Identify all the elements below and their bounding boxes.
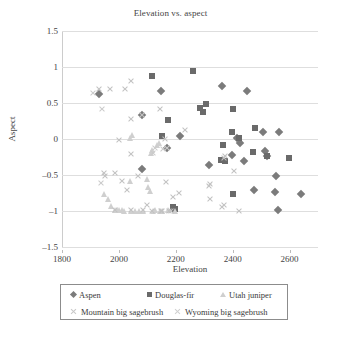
legend-row-top: AspenDouglas-firUtah juniper [61, 286, 287, 303]
data-point [229, 129, 235, 135]
legend-label: Mountain big sagebrush [81, 307, 163, 317]
data-point [128, 207, 135, 214]
data-point [218, 81, 226, 89]
data-point [207, 180, 214, 187]
data-point [135, 173, 142, 180]
data-point [128, 151, 135, 158]
plot-area [62, 31, 318, 247]
legend-label: Aspen [79, 290, 101, 300]
data-point [230, 168, 237, 175]
legend-marker-icon [173, 307, 182, 316]
data-point [129, 132, 135, 138]
data-point [271, 187, 279, 195]
data-point [127, 115, 134, 122]
x-tick-label: 2200 [153, 254, 199, 264]
data-point [95, 85, 102, 92]
x-tick-label: 2000 [96, 254, 142, 264]
data-point [147, 188, 153, 194]
data-point [243, 87, 251, 95]
chart-figure: Elevation vs. aspect Aspect 1.510.50–0.5… [0, 0, 341, 338]
legend-item[interactable]: Wyoming big sagebrush [173, 307, 268, 317]
data-point [152, 145, 159, 152]
y-tick-label: 0.5 [18, 98, 58, 108]
data-point [252, 125, 258, 131]
data-point [228, 151, 236, 159]
data-point [160, 146, 167, 153]
x-tick-label: 2600 [267, 254, 313, 264]
x-tick-label: 1800 [39, 254, 85, 264]
x-tick-mark [290, 250, 291, 253]
data-point [159, 208, 166, 215]
data-point [162, 179, 169, 186]
data-point [111, 207, 118, 214]
data-point [236, 208, 243, 215]
data-point [190, 68, 196, 74]
y-tick-label: –1.5 [18, 242, 58, 252]
data-point [200, 109, 206, 115]
data-point [205, 161, 213, 169]
data-point [236, 135, 242, 141]
legend-item[interactable]: Utah juniper [219, 290, 272, 300]
data-point [297, 189, 305, 197]
x-tick-mark [233, 250, 234, 253]
data-point [250, 149, 256, 155]
data-point [106, 85, 113, 92]
data-point [144, 176, 150, 182]
y-axis-tick-labels: 1.510.50–0.5–1–1.5 [16, 31, 58, 247]
legend-marker-icon [69, 307, 78, 316]
data-point [121, 85, 128, 92]
data-point [165, 117, 171, 123]
x-tick-mark [62, 250, 63, 253]
data-point [121, 208, 127, 214]
x-axis-tick-labels: 18002000220024002600 [62, 250, 318, 264]
data-point [250, 186, 258, 194]
data-point [98, 179, 105, 186]
y-tick-label: –1 [18, 206, 58, 216]
data-point [128, 77, 135, 84]
data-point [140, 207, 147, 214]
y-tick-label: 0 [18, 134, 58, 144]
data-point [89, 89, 96, 96]
legend-label: Douglas-fir [155, 290, 194, 300]
legend-label: Utah juniper [229, 290, 272, 300]
data-point [286, 155, 292, 161]
data-point [230, 106, 236, 112]
legend-item[interactable]: Mountain big sagebrush [69, 307, 163, 317]
data-point [119, 178, 126, 185]
data-point [149, 73, 155, 79]
data-point [203, 101, 209, 107]
data-point [157, 87, 165, 95]
data-point [272, 171, 280, 179]
chart-title: Elevation vs. aspect [0, 8, 341, 18]
x-tick-label: 2400 [210, 254, 256, 264]
data-point [181, 127, 188, 134]
data-point [206, 195, 213, 202]
legend-item[interactable]: Douglas-fir [145, 290, 194, 300]
legend-item[interactable]: Aspen [69, 290, 101, 300]
legend-marker-icon [70, 291, 77, 298]
data-point [221, 201, 228, 208]
data-point [123, 187, 130, 194]
data-point [101, 172, 108, 179]
y-tick-label: –0.5 [18, 170, 58, 180]
data-point [221, 153, 228, 160]
gridline [62, 247, 318, 248]
chart-legend: AspenDouglas-firUtah juniper Mountain bi… [60, 284, 288, 320]
data-point [240, 156, 248, 164]
legend-marker-icon [147, 292, 152, 297]
legend-row-bottom: Mountain big sagebrushWyoming big sagebr… [61, 303, 287, 320]
data-point [161, 136, 168, 143]
x-tick-mark [176, 250, 177, 253]
data-point [167, 208, 174, 215]
y-tick-label: 1 [18, 62, 58, 72]
x-tick-mark [119, 250, 120, 253]
data-point [230, 191, 236, 197]
legend-label: Wyoming big sagebrush [185, 307, 268, 317]
data-point [157, 105, 164, 112]
gridline [62, 103, 318, 104]
gridline [62, 139, 318, 140]
data-point [220, 142, 226, 148]
data-point [139, 112, 146, 119]
data-point [105, 196, 111, 202]
legend-marker-icon [220, 292, 226, 297]
